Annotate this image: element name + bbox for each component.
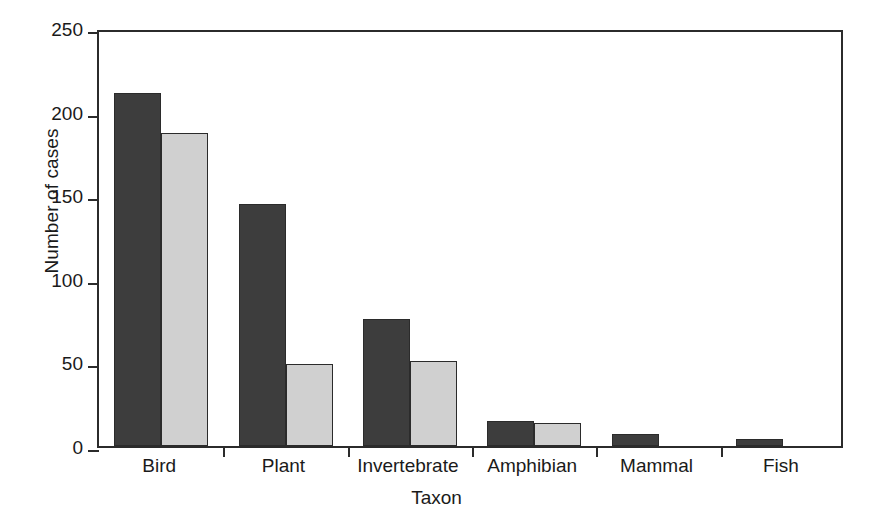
bar <box>286 364 333 446</box>
y-tick-mark <box>88 199 99 201</box>
bar <box>487 421 534 446</box>
bar <box>612 434 659 446</box>
bar <box>161 133 208 446</box>
y-tick-label: 50 <box>62 353 83 375</box>
x-axis-title: Taxon <box>0 487 873 509</box>
y-tick-mark <box>88 450 99 452</box>
bar <box>363 319 410 446</box>
bar <box>410 361 457 446</box>
y-tick-mark <box>88 283 99 285</box>
bar-chart-figure: Number of cases 050100150200250 BirdPlan… <box>0 0 873 532</box>
y-tick-label: 250 <box>51 19 83 41</box>
y-tick-label: 150 <box>51 186 83 208</box>
y-tick-label: 200 <box>51 103 83 125</box>
bar <box>114 93 161 446</box>
y-tick-mark <box>88 366 99 368</box>
bars-layer <box>99 32 841 446</box>
bar <box>239 204 286 446</box>
y-tick-label: 100 <box>51 270 83 292</box>
plot-area: 050100150200250 <box>97 30 843 448</box>
y-tick-mark <box>88 32 99 34</box>
bar <box>736 439 783 446</box>
x-category-label: Fish <box>691 455 871 477</box>
y-tick-mark <box>88 116 99 118</box>
bar <box>534 423 581 446</box>
